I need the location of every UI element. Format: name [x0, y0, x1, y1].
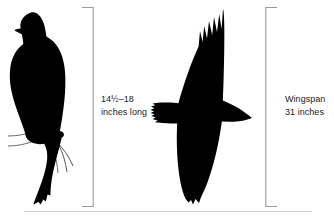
length-bracket [80, 6, 96, 208]
bird-size-comparison-infographic: 14½–18 inches long Wingspan 31 inches [0, 0, 334, 221]
hawk-body-shape [10, 12, 66, 204]
wingspan-measurement-label: Wingspan 31 inches [285, 93, 325, 118]
length-unit-line: inches long [101, 106, 147, 119]
bottom-divider [24, 211, 312, 212]
wingspan-value-line: 31 inches [285, 106, 325, 119]
wingspan-title-line: Wingspan [285, 93, 325, 106]
hawk-flight-shape [150, 9, 252, 205]
length-value-line: 14½–18 [101, 93, 147, 106]
wingspan-bracket [263, 6, 279, 208]
flying-hawk-silhouette [148, 0, 278, 215]
length-measurement-label: 14½–18 inches long [101, 93, 147, 118]
